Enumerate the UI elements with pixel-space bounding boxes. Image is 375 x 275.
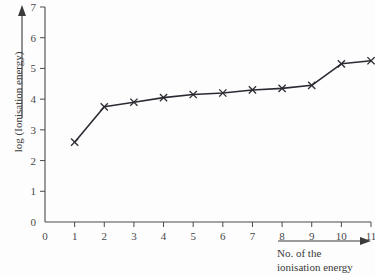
- x-tick-label: 2: [102, 230, 108, 242]
- y-tick-label: 4: [31, 93, 37, 105]
- y-axis-title: log (Ionisation energy): [12, 32, 26, 172]
- x-tick-label: 7: [250, 230, 256, 242]
- y-tick-label: 1: [31, 185, 37, 197]
- x-axis-title-line-1: No. of the: [277, 247, 353, 261]
- x-tick-label: 10: [336, 230, 348, 242]
- x-axis-ticks: [75, 222, 371, 227]
- y-axis-ticks: [40, 7, 45, 191]
- y-tick-label: 5: [31, 62, 37, 74]
- data-series-line: [75, 61, 371, 142]
- y-tick-label: 7: [31, 1, 37, 13]
- y-tick-label: 6: [31, 32, 37, 44]
- axes: [45, 7, 371, 222]
- y-tick-label: 0: [31, 216, 37, 228]
- x-tick-label: 1: [72, 230, 78, 242]
- x-tick-label: 6: [220, 230, 226, 242]
- data-point-marker: [71, 139, 78, 146]
- x-tick-label: 8: [279, 230, 285, 242]
- ionisation-energy-chart: 01234567 01234567891011 log (Ionisation …: [0, 0, 375, 275]
- x-axis-title: No. of the ionisation energy: [277, 247, 353, 275]
- y-axis-tick-labels: 01234567: [31, 1, 37, 228]
- x-axis-title-line-2: ionisation energy: [277, 261, 353, 275]
- x-axis-tick-labels: 01234567891011: [42, 230, 375, 242]
- y-tick-label: 3: [31, 124, 37, 136]
- x-tick-label: 0: [42, 230, 48, 242]
- chart-plot-area: 01234567 01234567891011: [0, 0, 375, 275]
- data-point-markers: [71, 57, 375, 146]
- x-tick-label: 9: [309, 230, 315, 242]
- x-tick-label: 5: [190, 230, 196, 242]
- x-tick-label: 4: [161, 230, 167, 242]
- y-tick-label: 2: [31, 155, 37, 167]
- arrow-right-icon: [278, 237, 371, 245]
- x-tick-label: 3: [131, 230, 137, 242]
